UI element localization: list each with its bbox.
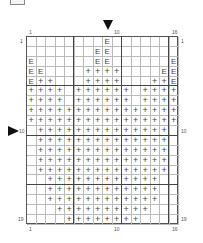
grid-cell (27, 185, 37, 195)
grid-cell (170, 146, 180, 156)
grid-cell (132, 47, 142, 57)
grid-cell (56, 57, 66, 67)
grid-cell: + (75, 195, 85, 205)
grid-cell (151, 37, 161, 47)
grid-cell: + (132, 166, 142, 176)
grid-cell: + (122, 215, 132, 225)
grid-cell: + (46, 185, 56, 195)
left-row-label-10: 10 (19, 129, 25, 134)
grid-cell: + (84, 116, 94, 126)
grid-cell (170, 185, 180, 195)
grid-cell: + (94, 205, 104, 215)
grid-cell: E (103, 47, 113, 57)
grid-cell (37, 215, 47, 225)
grid-cell: + (103, 156, 113, 166)
grid-cell: + (94, 215, 104, 225)
grid-cell: + (56, 96, 66, 106)
grid-cell (46, 37, 56, 47)
grid-cell: + (122, 146, 132, 156)
grid-cell: + (84, 67, 94, 77)
grid-cell: + (56, 116, 66, 126)
grid-cell: + (75, 205, 85, 215)
grid-cell: + (56, 156, 66, 166)
grid-cell: + (75, 136, 85, 146)
grid-cell: + (103, 86, 113, 96)
grid-cell: + (151, 106, 161, 116)
grid-cell: E (27, 57, 37, 67)
grid-cell: E (103, 37, 113, 47)
bottom-col-label-16: 16 (172, 227, 178, 232)
grid-cell (56, 67, 66, 77)
grid-cell: + (75, 116, 85, 126)
grid-cell: + (141, 86, 151, 96)
grid-cell: + (46, 156, 56, 166)
grid-cell: + (151, 156, 161, 166)
grid-cell: + (37, 86, 47, 96)
grid-cell: + (94, 67, 104, 77)
grid-cell (37, 195, 47, 205)
top-col-label-10: 10 (114, 30, 120, 35)
grid-cell: + (94, 156, 104, 166)
grid-cell: + (94, 106, 104, 116)
grid-cell: + (46, 195, 56, 205)
grid-cell (132, 57, 142, 67)
grid-cell: + (56, 166, 66, 176)
grid-cell: + (46, 106, 56, 116)
grid-cell: + (132, 195, 142, 205)
grid-cell (75, 67, 85, 77)
thick-row-divider (26, 85, 178, 86)
grid-cell (27, 136, 37, 146)
grid-cell (56, 215, 66, 225)
grid-cell: + (46, 86, 56, 96)
grid-cell (151, 57, 161, 67)
grid-cell: + (75, 166, 85, 176)
grid-cell: + (94, 86, 104, 96)
grid-cell (122, 67, 132, 77)
grid-cell: + (103, 185, 113, 195)
grid-cell (151, 67, 161, 77)
chart-grid: EEEEEEEEE++++EEE++++++++E+++++++++++++++… (26, 36, 178, 224)
grid-cell: + (46, 146, 56, 156)
grid-cell: + (122, 116, 132, 126)
grid-cell: + (94, 146, 104, 156)
grid-cell: + (132, 136, 142, 146)
grid-cell (132, 86, 142, 96)
grid-cell: + (103, 195, 113, 205)
grid-cell: + (151, 146, 161, 156)
grid-cell (170, 37, 180, 47)
grid-cell (56, 47, 66, 57)
grid-cell: + (94, 185, 104, 195)
grid-cell: + (75, 106, 85, 116)
grid-cell: + (141, 106, 151, 116)
grid-cell: + (132, 106, 142, 116)
grid-cell (27, 195, 37, 205)
grid-cell: + (46, 116, 56, 126)
grid-cell: + (170, 86, 180, 96)
grid-cell (132, 67, 142, 77)
grid-cell: + (132, 116, 142, 126)
grid-cell: + (151, 166, 161, 176)
grid-cell: + (94, 96, 104, 106)
grid-cell: E (103, 57, 113, 67)
grid-cell: + (132, 146, 142, 156)
grid-cell: + (170, 116, 180, 126)
grid-cell (75, 57, 85, 67)
top-col-label-16: 16 (172, 30, 178, 35)
grid-cell (84, 37, 94, 47)
bottom-col-label-1: 1 (29, 227, 32, 232)
grid-cell (151, 205, 161, 215)
grid-cell: E (170, 57, 180, 67)
grid-cell: E (27, 67, 37, 77)
grid-cell: + (75, 185, 85, 195)
grid-cell: + (141, 185, 151, 195)
grid-cell (46, 47, 56, 57)
grid-cell (27, 215, 37, 225)
grid-cell: + (46, 166, 56, 176)
grid-cell: + (75, 215, 85, 225)
grid-cell: + (170, 96, 180, 106)
bottom-col-label-10: 10 (114, 227, 120, 232)
grid-cell (46, 205, 56, 215)
grid-cell (170, 215, 180, 225)
grid-cell: + (27, 96, 37, 106)
grid-cell: + (56, 136, 66, 146)
